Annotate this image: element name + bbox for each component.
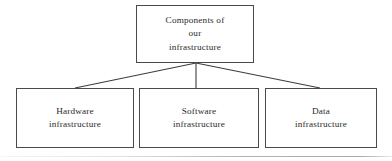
- page-footer-rule: [0, 156, 392, 157]
- connector-root-to-hardware: [75, 63, 196, 88]
- node-data-infrastructure: Data infrastructure: [265, 88, 377, 148]
- node-hardware-infrastructure: Hardware infrastructure: [16, 88, 134, 148]
- connector-root-to-data: [196, 63, 320, 88]
- infrastructure-hierarchy-diagram: Components of our infrastructure Hardwar…: [0, 0, 392, 161]
- node-data-label: Data infrastructure: [292, 105, 350, 131]
- node-hardware-label: Hardware infrastructure: [46, 105, 104, 131]
- node-root-components: Components of our infrastructure: [136, 5, 254, 63]
- node-software-label: Software infrastructure: [170, 105, 228, 131]
- node-software-infrastructure: Software infrastructure: [139, 88, 259, 148]
- node-root-label: Components of our infrastructure: [163, 14, 228, 53]
